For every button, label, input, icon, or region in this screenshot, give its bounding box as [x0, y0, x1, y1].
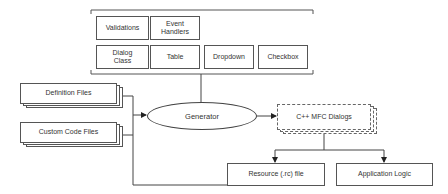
resource-file-box: Resource (.rc) file [227, 163, 325, 186]
cpp-mfc-dialogs-label: C++ MFC Dialogs [296, 113, 352, 121]
dialog-class-box: Dialog Class [96, 45, 149, 69]
generator-node: Generator [147, 102, 257, 130]
checkbox-box: Checkbox [258, 45, 308, 69]
generator-label: Generator [185, 112, 219, 121]
cpp-mfc-dialogs-box: C++ MFC Dialogs [277, 104, 371, 130]
application-logic-box: Application Logic [336, 163, 433, 186]
definition-files-box: Definition Files [20, 83, 117, 104]
dialog-class-label: Dialog Class [113, 49, 133, 65]
checkbox-label: Checkbox [267, 53, 298, 61]
dropdown-box: Dropdown [204, 45, 254, 69]
dropdown-label: Dropdown [213, 53, 245, 61]
custom-code-files-label: Custom Code Files [39, 128, 99, 136]
custom-code-files-box: Custom Code Files [20, 122, 117, 143]
validations-box: Validations [96, 16, 149, 40]
event-handlers-box: Event Handlers [150, 16, 200, 40]
event-handlers-label: Event Handlers [161, 20, 189, 36]
definition-files-label: Definition Files [46, 89, 92, 97]
table-box: Table [150, 45, 200, 69]
resource-file-label: Resource (.rc) file [248, 170, 303, 178]
table-label: Table [167, 53, 184, 61]
application-logic-label: Application Logic [358, 170, 411, 178]
validations-label: Validations [106, 24, 140, 32]
